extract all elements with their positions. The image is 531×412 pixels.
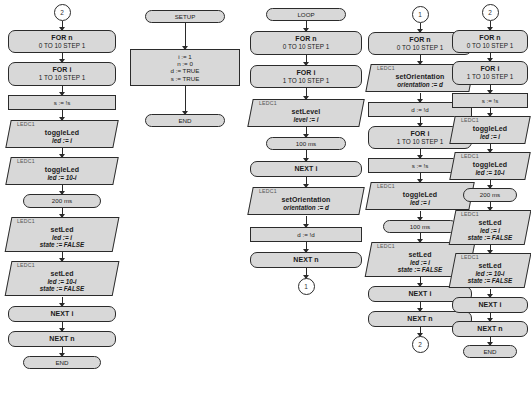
terminal-setup[interactable]: SETUP	[145, 10, 224, 23]
loop-keyword: FOR i	[253, 69, 359, 77]
device-parameter: led := 10-i	[456, 169, 524, 176]
device-tag-label: LEDC1	[461, 212, 524, 218]
flow-connector	[306, 55, 307, 65]
loop-head-block[interactable]: FOR n0 TO 10 STEP 1	[452, 30, 528, 53]
device-call-toggleled[interactable]: LEDC1toggleLedled := i	[8, 120, 116, 148]
flow-connector	[306, 150, 307, 161]
device-call-toggleled[interactable]: LEDC1toggleLedled := 10-i	[8, 157, 116, 185]
flow-connector	[185, 86, 186, 114]
loop-end-block[interactable]: NEXT n	[8, 331, 116, 347]
loop-head-block[interactable]: FOR n0 TO 10 STEP 1	[250, 31, 362, 54]
device-call-body: LEDC1toggleLedled := 10-i	[8, 157, 116, 185]
delay-label: 100 ms	[386, 223, 455, 230]
loop-end-label: NEXT i	[11, 310, 113, 318]
device-parameter: led := i	[12, 234, 112, 241]
loop-head-block[interactable]: FOR n0 TO 10 STEP 1	[8, 30, 116, 53]
loop-head-block[interactable]: FOR i1 TO 10 STEP 1	[8, 62, 116, 85]
loop-range: 1 TO 10 STEP 1	[253, 77, 359, 84]
device-call-toggleled[interactable]: LEDC1toggleLedled := 10-i	[452, 152, 528, 180]
connector-ref-1[interactable]: 1	[412, 6, 429, 23]
device-call-setled[interactable]: LEDC1setLedled := 10-istate := FALSE	[452, 253, 528, 288]
device-call-body: LEDC1toggleLedled := i	[368, 182, 472, 210]
device-call-body: LEDC1setOrientationorientation := d	[250, 187, 362, 215]
device-call-toggleled[interactable]: LEDC1toggleLedled := i	[452, 116, 528, 144]
flow-connector	[420, 233, 421, 242]
connector-ref-2[interactable]: 2	[412, 336, 429, 353]
assignment-block[interactable]: s := !s	[8, 95, 116, 110]
device-call-setlevel[interactable]: LEDC1setLevellevel := i	[250, 99, 362, 127]
device-method-name: setLevel	[254, 108, 358, 116]
loop-end-block[interactable]: NEXT i	[8, 306, 116, 322]
delay-block[interactable]: 200 ms	[23, 194, 101, 207]
flow-connector	[490, 144, 491, 152]
connector-ref-2[interactable]: 2	[482, 4, 499, 21]
flow-connector	[185, 23, 186, 49]
loop-end-block[interactable]: NEXT n	[452, 321, 528, 337]
terminal-end[interactable]: END	[145, 114, 224, 127]
flow-connector	[62, 86, 63, 95]
loop-keyword: FOR n	[11, 34, 113, 42]
assignment-text: s := !s	[455, 97, 525, 104]
delay-block[interactable]: 100 ms	[266, 137, 347, 150]
connector-ref-1[interactable]: 1	[298, 278, 315, 295]
flow-connector	[62, 297, 63, 306]
device-call-setled[interactable]: LEDC1setLedled := 10-istate := FALSE	[8, 261, 116, 296]
device-method-name: toggleLed	[456, 125, 524, 133]
loop-end-block[interactable]: NEXT i	[250, 161, 362, 177]
loop-range: 0 TO 10 STEP 1	[455, 42, 525, 49]
terminal-loop[interactable]: LOOP	[266, 8, 347, 21]
assignment-block[interactable]: d := !d	[250, 227, 362, 242]
flow-connector	[62, 322, 63, 331]
device-method-name: setOrientation	[372, 73, 468, 81]
device-method-name: setLed	[456, 219, 524, 227]
loop-head-block[interactable]: FOR i1 TO 10 STEP 1	[250, 65, 362, 88]
loop-end-block[interactable]: NEXT i	[452, 297, 528, 313]
device-method-name: setLed	[12, 270, 112, 278]
flow-connector	[420, 173, 421, 182]
flow-connector	[306, 88, 307, 99]
terminal-label: LOOP	[269, 11, 344, 18]
flow-connector	[62, 21, 63, 30]
device-tag-label: LEDC1	[259, 101, 358, 107]
terminal-end[interactable]: END	[463, 345, 518, 358]
device-parameter: led := i	[456, 133, 524, 140]
flow-connector	[490, 85, 491, 93]
flow-connector	[420, 149, 421, 158]
loop-range: 0 TO 10 STEP 1	[11, 42, 113, 49]
column-5: 2FOR n0 TO 10 STEP 1FOR i1 TO 10 STEP 1s…	[452, 0, 528, 358]
flow-connector	[490, 180, 491, 188]
device-tag-label: LEDC1	[461, 255, 524, 261]
device-parameter: orientation := d	[254, 204, 358, 211]
loop-end-label: NEXT i	[253, 165, 359, 173]
device-parameter: led := 10-i	[12, 174, 112, 181]
terminal-label: END	[466, 348, 515, 355]
device-call-setled[interactable]: LEDC1setLedled := istate := FALSE	[8, 217, 116, 252]
loop-end-block[interactable]: NEXT n	[250, 252, 362, 268]
device-tag-label: LEDC1	[17, 122, 112, 128]
assignment-block[interactable]: s := !s	[452, 93, 528, 108]
device-call-setorientation[interactable]: LEDC1setOrientationorientation := d	[368, 64, 472, 92]
device-call-setled[interactable]: LEDC1setLedled := istate := FALSE	[452, 210, 528, 245]
device-parameter: level := i	[254, 116, 358, 123]
device-parameter: led := i	[372, 199, 468, 206]
flow-connector	[490, 289, 491, 297]
flow-connector	[490, 245, 491, 253]
assignment-text: n := 0	[133, 60, 237, 67]
device-call-body: LEDC1setLevellevel := i	[250, 99, 362, 127]
device-tag-label: LEDC1	[377, 184, 468, 190]
delay-block[interactable]: 100 ms	[383, 220, 458, 233]
device-call-toggleled[interactable]: LEDC1toggleLedled := i	[368, 182, 472, 210]
terminal-end[interactable]: END	[23, 356, 101, 369]
device-method-name: toggleLed	[12, 129, 112, 137]
device-call-setorientation[interactable]: LEDC1setOrientationorientation := d	[250, 187, 362, 215]
loop-keyword: FOR i	[11, 66, 113, 74]
connector-ref-2[interactable]: 2	[54, 4, 71, 21]
assignment-block[interactable]: i := 1n := 0d := TRUEs := TRUE	[130, 49, 240, 86]
flow-connector	[62, 148, 63, 157]
flow-connector	[490, 313, 491, 321]
flow-connector	[306, 21, 307, 31]
assignment-text: s := TRUE	[133, 75, 237, 82]
assignment-text: s := !s	[11, 99, 113, 106]
device-call-body: LEDC1setOrientationorientation := d	[368, 64, 472, 92]
